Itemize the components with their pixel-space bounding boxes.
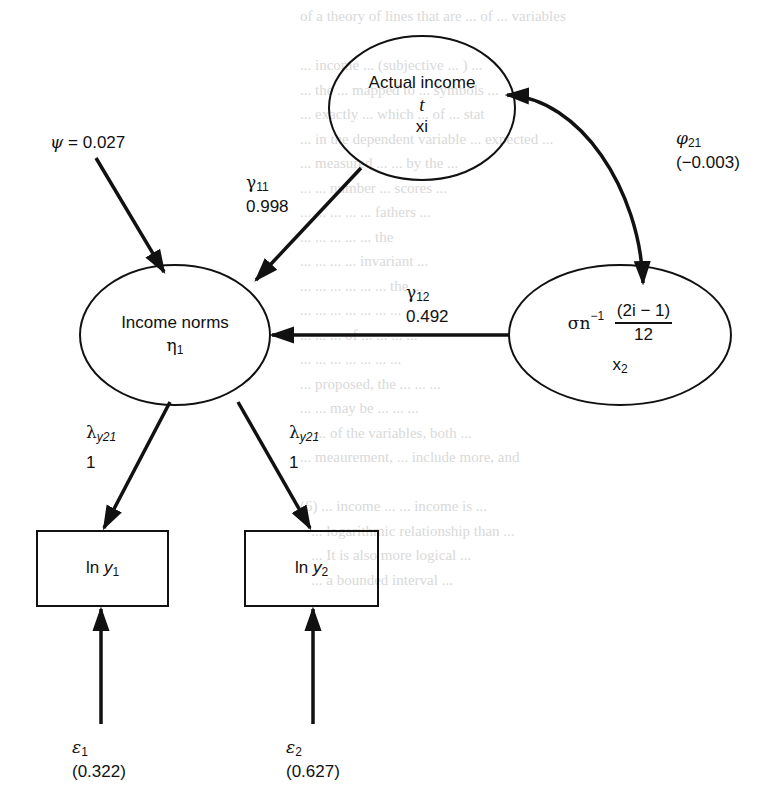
actual-income-symbol: t (342, 94, 502, 116)
x2-label: σn−1 (2i − 1) 12 x2 (520, 300, 720, 380)
income-norms-symbol: η1 (95, 334, 255, 361)
x2-formula: σn−1 (2i − 1) 12 (520, 300, 720, 346)
actual-income-title: Actual income (342, 72, 502, 94)
psi-arrow (96, 158, 164, 272)
lambda2-label: λy21 1 (289, 422, 319, 473)
phi21-label: φ21 (−0.003) (676, 128, 740, 173)
phi21-covariance-arrow (507, 95, 643, 283)
lambda1-label: λy21 1 (86, 422, 116, 473)
x2-var: x2 (520, 354, 720, 380)
ln-y2-label: ln y2 (245, 557, 378, 583)
actual-income-var: xi (342, 116, 502, 138)
eps2-label: ε2 (0.627) (286, 737, 340, 782)
eps1-label: ε1 (0.322) (72, 737, 126, 782)
actual-income-label: Actual income t xi (342, 72, 502, 138)
x2-fraction: (2i − 1) 12 (615, 300, 672, 346)
gamma11-label: γ11 0.998 (246, 172, 289, 217)
gamma12-label: γ12 0.492 (406, 282, 449, 327)
income-norms-title: Income norms (95, 312, 255, 334)
ln-y1-label: ln y1 (37, 557, 168, 583)
income-norms-label: Income norms η1 (95, 312, 255, 361)
psi-label: ψ = 0.027 (50, 132, 125, 153)
